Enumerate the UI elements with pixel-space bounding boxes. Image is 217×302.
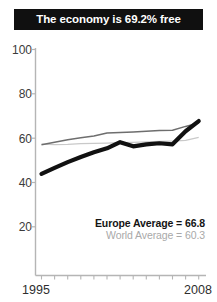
chart-figure: The economy is 69.2% free 100 80 60 40 2…: [0, 0, 217, 302]
xtick-label-end: 2008: [184, 283, 212, 297]
chart-plot-area: 100 80 60 40 20: [0, 34, 217, 302]
y-axis-tick-labels: 100 80 60 40 20: [12, 43, 32, 234]
chart-legend: Europe Average = 66.8 World Average = 60…: [95, 217, 205, 242]
page-title: The economy is 69.2% free: [36, 14, 181, 26]
ytick-label-100: 100: [12, 43, 32, 57]
x-axis-end-labels: 1995 2008: [22, 283, 212, 297]
legend-item-europe-average: Europe Average = 66.8: [95, 217, 205, 229]
ytick-label-40: 40: [19, 176, 33, 190]
line-chart-svg: 100 80 60 40 20: [0, 34, 217, 302]
ytick-label-20: 20: [19, 220, 33, 234]
ytick-label-60: 60: [19, 132, 33, 146]
xtick-label-start: 1995: [22, 283, 50, 297]
ytick-label-80: 80: [19, 87, 33, 101]
legend-item-world-average: World Average = 60.3: [95, 229, 205, 241]
title-banner: The economy is 69.2% free: [14, 9, 203, 30]
